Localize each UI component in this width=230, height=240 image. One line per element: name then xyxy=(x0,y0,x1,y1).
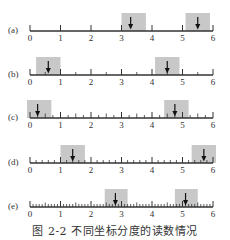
reading-box xyxy=(122,13,146,31)
row-label: (d) xyxy=(8,157,19,167)
figure-caption: 图 2-2 不同坐标分度的读数情况 xyxy=(0,222,230,238)
tick-label: 6 xyxy=(211,33,216,43)
tick-label: 5 xyxy=(180,33,185,43)
reading-box xyxy=(164,100,188,118)
reading-box xyxy=(27,100,51,118)
tick-label: 4 xyxy=(150,165,155,175)
tick-label: 4 xyxy=(150,33,155,43)
tick-label: 1 xyxy=(58,209,63,219)
tick-label: 6 xyxy=(211,209,216,219)
tick-label: 3 xyxy=(119,120,124,130)
tick-label: 5 xyxy=(180,165,185,175)
tick-label: 0 xyxy=(28,33,33,43)
tick-label: 0 xyxy=(28,209,33,219)
tick-label: 3 xyxy=(119,33,124,43)
tick-label: 0 xyxy=(28,165,33,175)
tick-label: 3 xyxy=(119,165,124,175)
tick-label: 1 xyxy=(58,165,63,175)
tick-label: 2 xyxy=(89,165,94,175)
tick-label: 5 xyxy=(180,120,185,130)
tick-label: 5 xyxy=(180,209,185,219)
tick-label: 5 xyxy=(180,77,185,87)
tick-label: 2 xyxy=(89,120,94,130)
row-label: (e) xyxy=(8,201,18,211)
tick-label: 0 xyxy=(28,77,33,87)
tick-label: 6 xyxy=(211,120,216,130)
tick-label: 3 xyxy=(119,77,124,87)
tick-label: 6 xyxy=(211,77,216,87)
tick-label: 4 xyxy=(150,77,155,87)
tick-label: 2 xyxy=(89,209,94,219)
tick-label: 6 xyxy=(211,165,216,175)
tick-label: 1 xyxy=(58,120,63,130)
row-label: (a) xyxy=(8,25,18,35)
row-label: (b) xyxy=(8,69,19,79)
tick-label: 1 xyxy=(58,33,63,43)
row-label: (c) xyxy=(8,112,18,122)
tick-label: 0 xyxy=(28,120,33,130)
tick-label: 2 xyxy=(89,77,94,87)
tick-label: 4 xyxy=(150,120,155,130)
tick-label: 2 xyxy=(89,33,94,43)
tick-label: 4 xyxy=(150,209,155,219)
tick-label: 1 xyxy=(58,77,63,87)
number-line-figure: 0123456(a)0123456(b)0123456(c)0123456(d)… xyxy=(0,0,230,240)
tick-label: 3 xyxy=(119,209,124,219)
